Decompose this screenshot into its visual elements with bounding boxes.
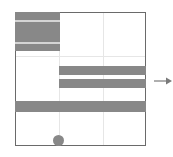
arrow-right-icon xyxy=(153,76,173,86)
middle-bar-2 xyxy=(59,79,146,88)
circle-marker xyxy=(53,135,64,146)
middle-bar-1 xyxy=(59,66,146,75)
gridline-horizontal-1 xyxy=(16,56,145,57)
diagram-frame xyxy=(15,12,146,146)
block-stripe xyxy=(15,42,60,44)
wide-bar xyxy=(15,101,146,112)
block-stripe xyxy=(15,20,60,22)
top-left-block xyxy=(15,12,60,51)
